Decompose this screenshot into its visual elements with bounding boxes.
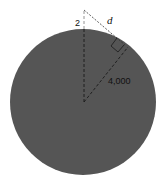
distance-label: d xyxy=(107,14,113,26)
height-label: 2 xyxy=(75,18,80,28)
earth-horizon-diagram: 2 d 4,000 xyxy=(0,0,165,182)
radius-label: 4,000 xyxy=(108,76,131,86)
earth-circle xyxy=(10,29,156,175)
